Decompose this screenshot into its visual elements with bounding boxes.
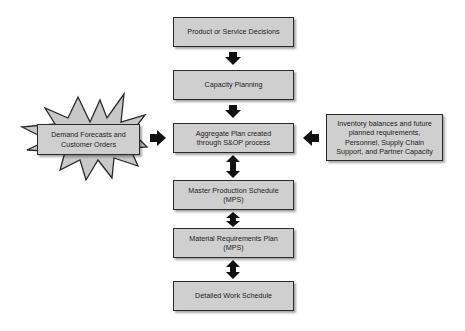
box-label: Master Production Schedule (MPS) — [178, 186, 289, 205]
capacity-planning-box: Capacity Planning — [173, 70, 294, 100]
down-arrow-icon — [225, 105, 241, 118]
box-label: Aggregate Plan created through S&OP proc… — [188, 129, 279, 148]
down-arrow-icon — [225, 52, 241, 65]
inventory-capacity-box: Inventory balances and future planned re… — [326, 114, 443, 161]
right-arrow-icon — [150, 130, 166, 146]
aggregate-plan-box: Aggregate Plan created through S&OP proc… — [173, 123, 294, 153]
box-label: Detailed Work Schedule — [195, 291, 272, 300]
box-label: Demand Forecasts and Customer Orders — [50, 130, 127, 149]
demand-forecasts-box: Demand Forecasts and Customer Orders — [37, 124, 140, 155]
double-arrow-icon — [226, 260, 240, 279]
box-label: Capacity Planning — [205, 80, 263, 89]
box-label: Material Requirements Plan (MPS) — [178, 234, 289, 253]
left-arrow-icon — [303, 130, 319, 146]
material-requirements-plan-box: Material Requirements Plan (MPS) — [173, 228, 294, 258]
double-arrow-icon — [226, 212, 240, 227]
double-arrow-icon — [226, 155, 240, 178]
detailed-work-schedule-box: Detailed Work Schedule — [173, 281, 294, 311]
box-label: Product or Service Decisions — [187, 27, 279, 36]
product-service-decisions-box: Product or Service Decisions — [173, 17, 294, 47]
master-production-schedule-box: Master Production Schedule (MPS) — [173, 180, 294, 210]
box-label: Inventory balances and future planned re… — [332, 119, 437, 156]
